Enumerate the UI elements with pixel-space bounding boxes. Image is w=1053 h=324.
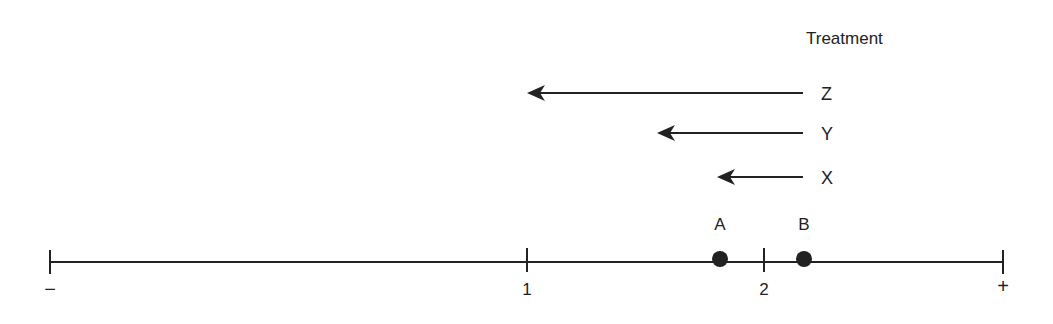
axis-max-label: +: [997, 275, 1009, 297]
arrow-y: Y: [657, 124, 833, 144]
point-b: [796, 251, 812, 267]
point-a-label: A: [714, 215, 726, 234]
arrow-y-label: Y: [821, 124, 833, 144]
arrow-z: Z: [527, 84, 832, 104]
arrow-z-label: Z: [821, 84, 832, 104]
axis-min-label: −: [44, 278, 56, 300]
point-b-label: B: [798, 215, 809, 234]
diagram-title: Treatment: [806, 29, 883, 48]
arrow-x-label: X: [821, 168, 833, 188]
axis-tick-1-label: 1: [522, 280, 531, 299]
diagram-canvas: Treatment Z Y X − + 1 2 A: [0, 0, 1053, 324]
arrow-x: X: [717, 168, 833, 188]
axis-tick-2-label: 2: [759, 280, 768, 299]
point-a: [712, 251, 728, 267]
